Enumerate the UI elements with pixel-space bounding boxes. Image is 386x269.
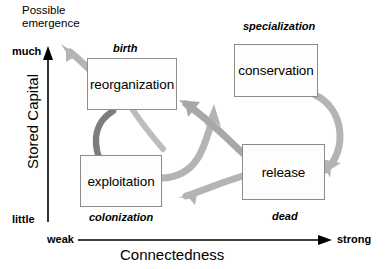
possible-emergence-note: Possible emergence: [22, 4, 80, 30]
node-reorganization[interactable]: reorganization: [87, 58, 177, 110]
adaptive-cycle-diagram: reorganization conservation exploitation…: [0, 0, 386, 269]
arrow-exploitation-to-conservation: [163, 104, 221, 178]
phase-label-dead: dead: [272, 210, 298, 222]
y-axis-low-label: little: [12, 213, 35, 225]
node-exploitation[interactable]: exploitation: [80, 155, 162, 207]
x-axis-high-label: strong: [337, 233, 371, 245]
possible-emergence-line-1: Possible: [22, 4, 80, 17]
y-axis: [43, 46, 53, 222]
x-axis-title: Connectedness: [120, 246, 224, 263]
arrow-reorganization-to-exploitation: [133, 110, 163, 149]
x-axis-low-label: weak: [47, 233, 74, 245]
phase-label-colonization: colonization: [89, 211, 153, 223]
node-exploitation-label: exploitation: [87, 174, 154, 189]
node-release-label: release: [262, 165, 306, 180]
node-conservation-label: conservation: [238, 63, 313, 78]
x-axis: [78, 235, 332, 245]
node-conservation[interactable]: conservation: [234, 44, 318, 97]
arrow-release-to-exploitation: [178, 176, 243, 205]
y-axis-high-label: much: [12, 45, 41, 57]
node-release[interactable]: release: [242, 144, 325, 200]
phase-label-specialization: specialization: [243, 20, 315, 32]
phase-label-birth: birth: [113, 42, 137, 54]
diagram-canvas: [0, 0, 386, 269]
y-axis-title: Stored Capital: [24, 62, 41, 182]
possible-emergence-line-2: emergence: [22, 17, 80, 30]
node-reorganization-label: reorganization: [90, 77, 174, 92]
arrow-exploitation-to-reorganization: [96, 111, 113, 158]
